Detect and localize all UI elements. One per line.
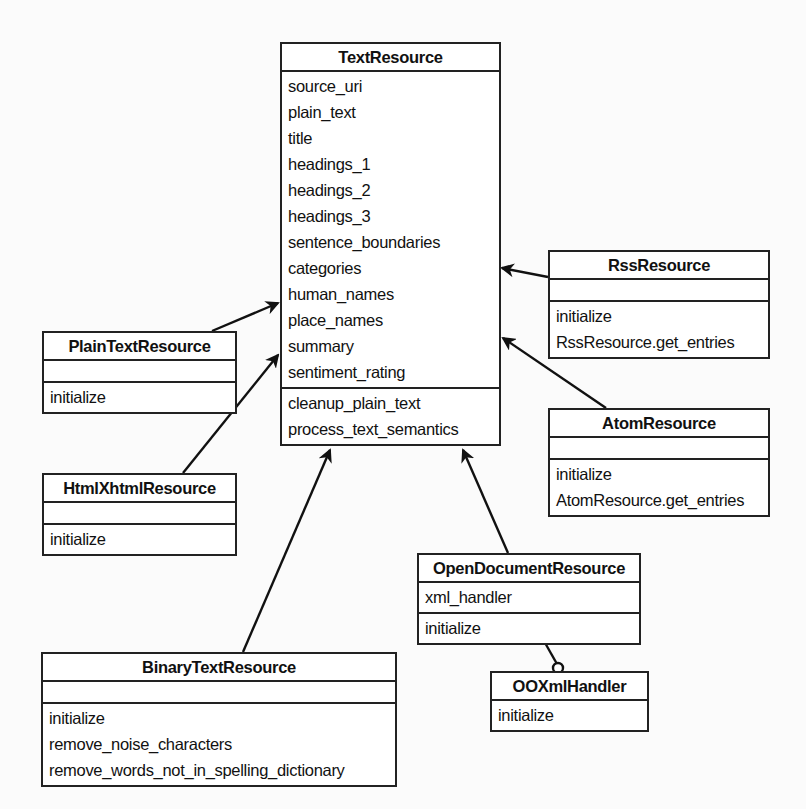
attribute: title xyxy=(288,125,493,151)
attribute: headings_1 xyxy=(288,151,493,177)
class-name: OpenDocumentResource xyxy=(419,555,639,583)
method: initialize xyxy=(556,303,762,329)
class-name: HtmlXhtmlResource xyxy=(44,475,235,503)
attributes-section xyxy=(550,438,768,460)
methods-section: initialize xyxy=(44,525,235,554)
class-opendocumentresource[interactable]: OpenDocumentResource xml_handler initial… xyxy=(417,553,641,645)
attributes-section xyxy=(44,361,235,383)
attribute: headings_3 xyxy=(288,203,493,229)
edge-plaintext-to-textresource xyxy=(212,303,278,331)
attributes-section xyxy=(44,503,235,525)
class-htmlxhtmlresource[interactable]: HtmlXhtmlResource initialize xyxy=(42,473,237,556)
methods-section: initialize RssResource.get_entries xyxy=(550,302,768,357)
method: initialize xyxy=(50,526,229,552)
method: initialize xyxy=(425,615,633,641)
method: initialize xyxy=(556,461,762,487)
attribute: human_names xyxy=(288,281,493,307)
attribute: sentiment_rating xyxy=(288,359,493,385)
class-name: TextResource xyxy=(282,44,499,72)
attributes-section xyxy=(43,682,395,704)
class-name: BinaryTextResource xyxy=(43,654,395,682)
attribute: summary xyxy=(288,333,493,359)
uml-diagram: TextResource source_uri plain_text title… xyxy=(0,0,806,809)
class-ooxmlhandler[interactable]: OOXmlHandler initialize xyxy=(490,671,649,732)
method: RssResource.get_entries xyxy=(556,329,762,355)
method: initialize xyxy=(50,384,229,410)
methods-section: initialize remove_noise_characters remov… xyxy=(43,704,395,785)
attributes-section xyxy=(550,280,768,302)
class-name: OOXmlHandler xyxy=(492,673,647,701)
methods-section: initialize AtomResource.get_entries xyxy=(550,460,768,515)
attribute: sentence_boundaries xyxy=(288,229,493,255)
attribute: source_uri xyxy=(288,73,493,99)
attributes-section: xml_handler xyxy=(419,583,639,614)
edge-rss-to-textresource xyxy=(502,268,548,277)
method: process_text_semantics xyxy=(288,416,493,442)
class-atomresource[interactable]: AtomResource initialize AtomResource.get… xyxy=(548,408,770,517)
method: initialize xyxy=(49,705,389,731)
class-name: RssResource xyxy=(550,252,768,280)
method: initialize xyxy=(498,702,641,728)
attribute: plain_text xyxy=(288,99,493,125)
class-name: AtomResource xyxy=(550,410,768,438)
edge-opendoc-to-textresource xyxy=(463,450,508,553)
method: remove_noise_characters xyxy=(49,731,389,757)
methods-section: initialize xyxy=(492,701,647,730)
class-name: PlainTextResource xyxy=(44,333,235,361)
edge-binarytext-to-textresource xyxy=(243,450,330,652)
class-rssresource[interactable]: RssResource initialize RssResource.get_e… xyxy=(548,250,770,359)
class-plaintextresource[interactable]: PlainTextResource initialize xyxy=(42,331,237,414)
method: remove_words_not_in_spelling_dictionary xyxy=(49,757,389,783)
class-binarytextresource[interactable]: BinaryTextResource initialize remove_noi… xyxy=(41,652,397,787)
method: cleanup_plain_text xyxy=(288,390,493,416)
attribute: xml_handler xyxy=(425,584,633,610)
method: AtomResource.get_entries xyxy=(556,487,762,513)
methods-section: initialize xyxy=(419,614,639,643)
attribute: categories xyxy=(288,255,493,281)
attribute: headings_2 xyxy=(288,177,493,203)
methods-section: initialize xyxy=(44,383,235,412)
attribute: place_names xyxy=(288,307,493,333)
methods-section: cleanup_plain_text process_text_semantic… xyxy=(282,389,499,444)
class-textresource[interactable]: TextResource source_uri plain_text title… xyxy=(280,42,501,446)
attributes-section: source_uri plain_text title headings_1 h… xyxy=(282,72,499,389)
